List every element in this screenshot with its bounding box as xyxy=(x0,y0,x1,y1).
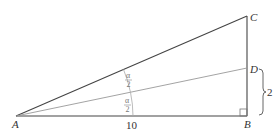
side-ac xyxy=(16,16,247,116)
segment-ad xyxy=(16,68,247,116)
angle-lower-numerator: α xyxy=(125,96,130,105)
angle-upper-numerator: α xyxy=(126,71,131,80)
label-point-a: A xyxy=(11,118,19,130)
label-point-c: C xyxy=(250,11,258,23)
angle-lower-denominator: 2 xyxy=(126,105,130,114)
triangle-diagram: A B C D 10 2 α 2 α 2 xyxy=(0,0,280,139)
label-length-bd: 2 xyxy=(267,86,273,98)
angle-upper-denominator: 2 xyxy=(127,80,131,89)
angle-arc-lower xyxy=(131,92,134,116)
label-point-d: D xyxy=(249,63,258,75)
label-point-b: B xyxy=(244,118,251,130)
brace-bd xyxy=(259,69,266,115)
label-length-ab: 10 xyxy=(126,119,138,131)
right-angle-marker xyxy=(240,109,247,116)
